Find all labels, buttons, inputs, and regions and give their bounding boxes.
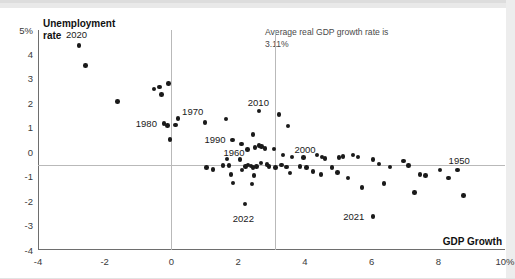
scatter-point[interactable]	[406, 163, 411, 168]
point-label-2000: 2000	[295, 145, 316, 155]
scatter-point[interactable]	[335, 170, 340, 175]
scatter-point[interactable]	[418, 172, 423, 177]
scatter-point[interactable]	[323, 156, 328, 161]
scatter-point[interactable]	[173, 123, 178, 128]
x-tick-10: 10%	[487, 257, 515, 267]
scatter-point[interactable]	[412, 190, 417, 195]
scatter-point[interactable]	[273, 165, 278, 170]
point-label-2021: 2021	[343, 212, 364, 222]
scatter-point[interactable]	[204, 165, 209, 170]
y-tick-1: 1	[7, 123, 33, 133]
scatter-point[interactable]	[401, 159, 406, 164]
y-tick-5: 5%	[7, 26, 33, 36]
scatter-point-2020[interactable]	[77, 43, 82, 48]
scatter-point[interactable]	[203, 120, 208, 125]
scatter-point[interactable]	[279, 163, 284, 168]
scatter-point[interactable]	[281, 153, 286, 158]
scatter-point[interactable]	[115, 99, 120, 104]
point-label-2010: 2010	[248, 98, 269, 108]
scatter-point[interactable]	[231, 181, 236, 186]
scatter-point[interactable]	[152, 87, 157, 92]
point-label-1970: 1970	[182, 107, 203, 117]
scatter-point[interactable]	[239, 142, 244, 147]
scatter-point[interactable]	[356, 155, 361, 160]
scatter-point[interactable]	[165, 123, 170, 128]
point-label-1990: 1990	[205, 135, 226, 145]
scatter-point[interactable]	[351, 153, 356, 158]
scatter-point[interactable]	[446, 176, 451, 181]
scatter-point[interactable]	[304, 165, 309, 170]
scatter-point-1970[interactable]	[176, 116, 181, 121]
scatter-point[interactable]	[298, 164, 303, 169]
scatter-point[interactable]	[159, 92, 164, 97]
scatter-point[interactable]	[251, 132, 256, 137]
scatter-point[interactable]	[388, 165, 393, 170]
scatter-point[interactable]	[284, 165, 289, 170]
scatter-point[interactable]	[423, 173, 428, 178]
point-label-2020: 2020	[66, 30, 87, 40]
scatter-point[interactable]	[311, 169, 316, 174]
scatter-point[interactable]	[286, 124, 291, 129]
scatter-point-1990[interactable]	[230, 138, 235, 143]
x-tick-6: 6	[354, 257, 390, 267]
scatter-point[interactable]	[211, 167, 216, 172]
scatter-point[interactable]	[168, 137, 173, 142]
right-chrome-band	[506, 0, 515, 279]
y-axis-title-line1: Unemployment	[43, 18, 153, 30]
point-label-2022: 2022	[233, 214, 254, 224]
scatter-point[interactable]	[227, 163, 232, 168]
scatter-point[interactable]	[461, 193, 466, 198]
plot-area: 2020198019701990196020102000195020222021	[38, 30, 505, 250]
top-chrome-band	[0, 0, 515, 8]
x-tick--4: -4	[20, 257, 56, 267]
x-tick-2: 2	[220, 257, 256, 267]
y-axis-line	[38, 30, 39, 250]
scatter-point[interactable]	[250, 182, 255, 187]
y-tick--1: -1	[7, 172, 33, 182]
scatter-point[interactable]	[371, 157, 376, 162]
scatter-point-1950[interactable]	[455, 168, 460, 173]
scatter-point[interactable]	[267, 164, 272, 169]
scatter-point-2021[interactable]	[371, 214, 376, 219]
y-tick--3: -3	[7, 221, 33, 231]
scatter-point[interactable]	[330, 165, 335, 170]
zero-unemployment-gridline	[38, 165, 505, 166]
point-label-1950: 1950	[449, 156, 470, 166]
scatter-point[interactable]	[83, 63, 88, 68]
x-axis-line	[38, 249, 505, 250]
scatter-point[interactable]	[290, 155, 295, 160]
scatter-point[interactable]	[438, 168, 443, 173]
scatter-point-1960[interactable]	[245, 147, 250, 152]
x-tick-4: 4	[287, 257, 323, 267]
scatter-point[interactable]	[254, 164, 259, 169]
x-tick--2: -2	[87, 257, 123, 267]
top-chrome-band-inner	[0, 0, 515, 3]
scatter-point[interactable]	[360, 185, 365, 190]
chart-page: Unemployment rate GDP Growth Average rea…	[0, 0, 515, 279]
scatter-point-2000[interactable]	[301, 155, 306, 160]
scatter-point[interactable]	[224, 117, 229, 122]
scatter-point[interactable]	[382, 181, 387, 186]
scatter-point[interactable]	[229, 172, 234, 177]
scatter-point[interactable]	[157, 85, 162, 90]
y-tick--4: -4	[7, 246, 33, 256]
scatter-point[interactable]	[166, 81, 171, 86]
scatter-point[interactable]	[252, 173, 257, 178]
y-tick-2: 2	[7, 99, 33, 109]
average-gdp-growth-line	[275, 30, 276, 250]
scatter-point[interactable]	[346, 176, 351, 181]
scatter-point-2010[interactable]	[257, 109, 262, 114]
point-label-1980: 1980	[136, 119, 157, 129]
y-tick-3: 3	[7, 74, 33, 84]
y-tick-0: 0	[7, 148, 33, 158]
scatter-point[interactable]	[277, 112, 282, 117]
x-tick-8: 8	[420, 257, 456, 267]
x-tick-0: 0	[153, 257, 189, 267]
y-tick-4: 4	[7, 50, 33, 60]
scatter-point[interactable]	[341, 154, 346, 159]
scatter-point[interactable]	[221, 163, 226, 168]
scatter-point[interactable]	[288, 171, 293, 176]
scatter-point[interactable]	[319, 172, 324, 177]
scatter-point[interactable]	[263, 146, 268, 151]
scatter-point-2022[interactable]	[243, 202, 248, 207]
